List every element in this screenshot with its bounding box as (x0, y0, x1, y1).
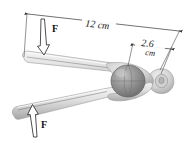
force-arrow-top: F (38, 19, 59, 55)
dimension-2-6cm-unit: cm (145, 47, 156, 58)
nutcracker-figure: 12 cm 2.6 cm F F (0, 0, 188, 143)
nut-sphere (111, 65, 145, 97)
dimension-12cm-label: 12 cm (85, 18, 110, 32)
force-label-top: F (52, 23, 58, 34)
force-label-bottom: F (41, 119, 47, 130)
figure-svg: 12 cm 2.6 cm F F (0, 0, 188, 143)
